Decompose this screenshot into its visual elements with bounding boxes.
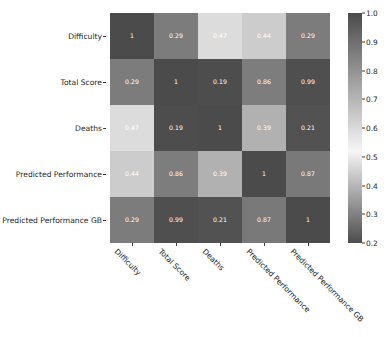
heatmap-cell-value: 0.86 xyxy=(257,79,271,85)
y-tick-mark-icon xyxy=(103,128,106,129)
heatmap-cell: 0.19 xyxy=(198,59,242,105)
x-tick-label: Deaths xyxy=(201,247,226,272)
heatmap-cell: 1 xyxy=(110,13,154,59)
heatmap-cell: 0.86 xyxy=(242,59,286,105)
x-tick-label: Total Score xyxy=(157,247,193,283)
heatmap-cell-value: 0.44 xyxy=(125,171,139,177)
heatmap-cell: 0.99 xyxy=(286,59,330,105)
y-tick-0: Difficulty xyxy=(0,13,106,59)
heatmap-cell: 0.21 xyxy=(286,105,330,151)
heatmap-cell-value: 0.87 xyxy=(301,171,315,177)
correlation-heatmap-figure: Difficulty Total Score Deaths Predicted … xyxy=(0,0,388,337)
colorbar-tick-label: 0.6 xyxy=(362,124,378,133)
heatmap-cell-grid: 10.290.470.440.290.2910.190.860.990.470.… xyxy=(110,13,330,243)
y-tick-label: Predicted Performance xyxy=(16,170,102,179)
colorbar-tick-label: 0.3 xyxy=(362,210,378,219)
heatmap-cell-value: 0.29 xyxy=(125,79,139,85)
heatmap-cell-value: 0.99 xyxy=(169,217,183,223)
heatmap-cell: 1 xyxy=(154,59,198,105)
heatmap-cell: 0.29 xyxy=(154,13,198,59)
y-tick-mark-icon xyxy=(103,36,106,37)
y-tick-label: Deaths xyxy=(75,124,102,133)
heatmap-cell-value: 1 xyxy=(130,33,134,39)
colorbar-tick-label: 0.4 xyxy=(362,181,378,190)
heatmap-cell-value: 0.19 xyxy=(213,79,227,85)
colorbar-tick-label: 0.2 xyxy=(362,239,378,248)
heatmap-cell: 0.87 xyxy=(242,197,286,243)
heatmap-plot-area: 10.290.470.440.290.2910.190.860.990.470.… xyxy=(110,13,330,243)
heatmap-cell-value: 0.21 xyxy=(301,125,315,131)
colorbar-tick-label: 1.0 xyxy=(362,9,378,18)
y-tick-mark-icon xyxy=(103,82,106,83)
x-tick-mark-icon xyxy=(264,243,265,246)
y-tick-label: Predicted Performance GB xyxy=(2,216,102,225)
heatmap-cell: 0.39 xyxy=(242,105,286,151)
y-axis: Difficulty Total Score Deaths Predicted … xyxy=(0,13,106,243)
heatmap-cell: 1 xyxy=(242,151,286,197)
heatmap-cell-value: 0.39 xyxy=(213,171,227,177)
heatmap-cell: 0.29 xyxy=(110,197,154,243)
heatmap-cell: 0.47 xyxy=(110,105,154,151)
colorbar-tick-label: 0.7 xyxy=(362,95,378,104)
x-tick-mark-icon xyxy=(176,243,177,246)
heatmap-cell: 0.44 xyxy=(242,13,286,59)
colorbar-tick-label: 0.8 xyxy=(362,66,378,75)
heatmap-cell: 0.47 xyxy=(198,13,242,59)
heatmap-cell: 1 xyxy=(286,197,330,243)
heatmap-cell: 0.44 xyxy=(110,151,154,197)
heatmap-cell: 0.29 xyxy=(286,13,330,59)
heatmap-cell-value: 0.29 xyxy=(169,33,183,39)
y-tick-label: Total Score xyxy=(61,78,102,87)
heatmap-cell: 0.87 xyxy=(286,151,330,197)
x-tick-mark-icon xyxy=(220,243,221,246)
heatmap-cell-value: 0.47 xyxy=(125,125,139,131)
x-tick-label: Predicted Performance GB xyxy=(289,247,366,324)
heatmap-cell-value: 1 xyxy=(174,79,178,85)
heatmap-cell-value: 1 xyxy=(218,125,222,131)
y-tick-mark-icon xyxy=(103,174,106,175)
heatmap-cell: 0.19 xyxy=(154,105,198,151)
colorbar-axis: 1.00.90.80.70.60.50.40.30.2 xyxy=(348,13,388,243)
y-tick-4: Predicted Performance GB xyxy=(0,197,106,243)
heatmap-cell-value: 0.44 xyxy=(257,33,271,39)
heatmap-cell-value: 1 xyxy=(306,217,310,223)
heatmap-cell-value: 0.87 xyxy=(257,217,271,223)
colorbar-tick-label: 0.9 xyxy=(362,37,378,46)
x-tick-label: Difficulty xyxy=(113,247,143,277)
heatmap-cell-value: 0.29 xyxy=(125,217,139,223)
x-tick-mark-icon xyxy=(132,243,133,246)
heatmap-cell-value: 0.29 xyxy=(301,33,315,39)
heatmap-cell: 0.39 xyxy=(198,151,242,197)
y-tick-2: Deaths xyxy=(0,105,106,151)
heatmap-cell: 0.99 xyxy=(154,197,198,243)
heatmap-cell: 1 xyxy=(198,105,242,151)
heatmap-cell: 0.29 xyxy=(110,59,154,105)
x-axis: DifficultyTotal ScoreDeathsPredicted Per… xyxy=(110,243,330,335)
colorbar-tick-label: 0.5 xyxy=(362,152,378,161)
y-tick-mark-icon xyxy=(103,220,106,221)
heatmap-cell: 0.21 xyxy=(198,197,242,243)
y-tick-1: Total Score xyxy=(0,59,106,105)
heatmap-cell-value: 0.86 xyxy=(169,171,183,177)
y-tick-3: Predicted Performance xyxy=(0,151,106,197)
heatmap-cell-value: 1 xyxy=(262,171,266,177)
heatmap-cell-value: 0.19 xyxy=(169,125,183,131)
y-tick-label: Difficulty xyxy=(68,32,102,41)
heatmap-cell-value: 0.39 xyxy=(257,125,271,131)
heatmap-cell-value: 0.47 xyxy=(213,33,227,39)
heatmap-cell-value: 0.21 xyxy=(213,217,227,223)
x-tick-mark-icon xyxy=(308,243,309,246)
heatmap-cell: 0.86 xyxy=(154,151,198,197)
heatmap-cell-value: 0.99 xyxy=(301,79,315,85)
